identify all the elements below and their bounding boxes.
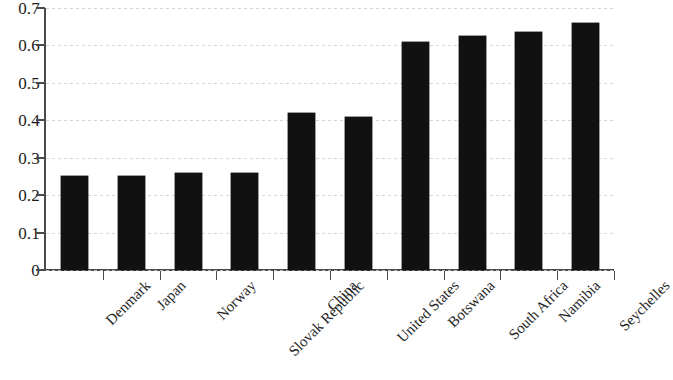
y-tick-label: 0.1 [0,224,40,241]
x-tick-mark [103,271,104,280]
x-tick-mark [614,271,615,280]
y-tick-label: 0.2 [0,187,40,204]
x-tick-mark [330,271,331,280]
plot-area [46,8,614,270]
bar [345,117,372,270]
bar [61,176,88,270]
x-tick-label: Japan [154,278,189,313]
bar [118,176,145,270]
x-axis-tick-labels: DenmarkJapanNorwaySlovak RepublicChinaUn… [46,272,620,380]
x-tick-mark [273,271,274,280]
y-tick-label: 0.6 [0,37,40,54]
y-tick-mark [36,44,45,46]
y-tick-mark [36,7,45,9]
bar [402,42,429,270]
y-tick-mark [36,269,45,271]
y-tick-mark [36,82,45,84]
bars-group [46,8,614,270]
y-tick-label: 0.4 [0,112,40,129]
bar [231,173,258,270]
x-tick-mark [557,271,558,280]
x-tick-label: Norway [215,278,260,323]
x-tick-mark [500,271,501,280]
bar [175,173,202,270]
x-tick-mark [444,271,445,280]
y-tick-mark [36,194,45,196]
x-tick-mark [387,271,388,280]
y-tick-label: 0.3 [0,149,40,166]
bar [572,23,599,270]
bar [515,32,542,270]
x-tick-mark [216,271,217,280]
x-tick-label: Seychelles [617,278,673,334]
y-tick-mark [36,119,45,121]
bar [459,36,486,270]
y-tick-label: 0.5 [0,74,40,91]
y-tick-mark [36,232,45,234]
y-tick-label: 0 [0,262,40,279]
y-axis-tick-labels: 00.10.20.30.40.50.60.7 [0,0,40,380]
y-tick-mark [36,157,45,159]
x-tick-label: Denmark [103,278,153,328]
x-tick-mark [160,271,161,280]
bar [288,113,315,270]
y-tick-label: 0.7 [0,0,40,17]
